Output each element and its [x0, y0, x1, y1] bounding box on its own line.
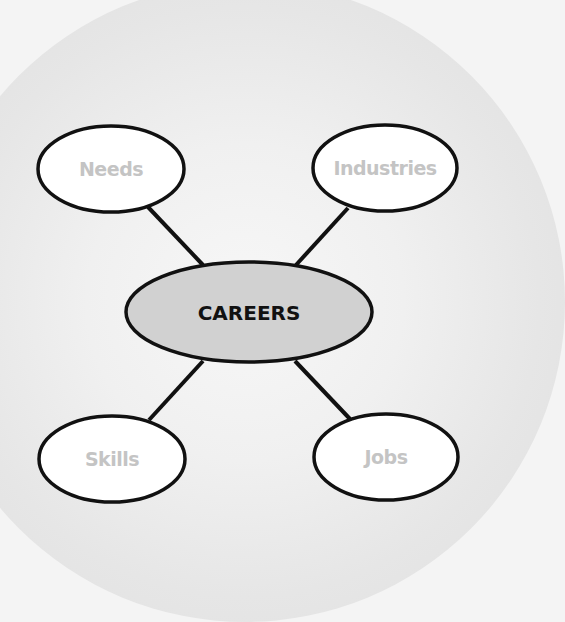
edge-center-needs: [148, 207, 203, 265]
industries-label: Industries: [333, 157, 436, 179]
needs-label: Needs: [79, 158, 143, 180]
careers-label: CAREERS: [198, 301, 301, 325]
edge-center-skills: [149, 361, 203, 420]
edge-center-jobs: [295, 361, 350, 419]
jobs-label: Jobs: [364, 446, 407, 468]
edge-center-industries: [296, 208, 348, 265]
skills-label: Skills: [85, 448, 139, 470]
